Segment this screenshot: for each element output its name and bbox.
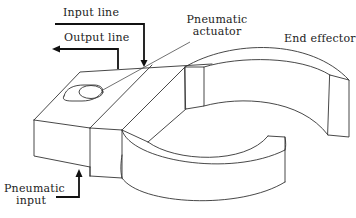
- end-effector-label: End effector: [284, 33, 356, 45]
- output-line-label: Output line: [64, 32, 129, 44]
- output-line-arrow: [52, 46, 118, 70]
- actuator-slot: [63, 85, 103, 101]
- lower-arm: [121, 130, 286, 201]
- pneumatic-actuator-label: Pneumatic actuator: [186, 14, 248, 38]
- upper-arm: [148, 47, 349, 142]
- input-line-label: Input line: [63, 7, 119, 19]
- pneumatic-input-label-line2: input: [4, 195, 58, 207]
- pneumatic-input-label: Pneumatic input: [4, 183, 58, 207]
- pneumatic-actuator-label-line2: actuator: [186, 26, 248, 38]
